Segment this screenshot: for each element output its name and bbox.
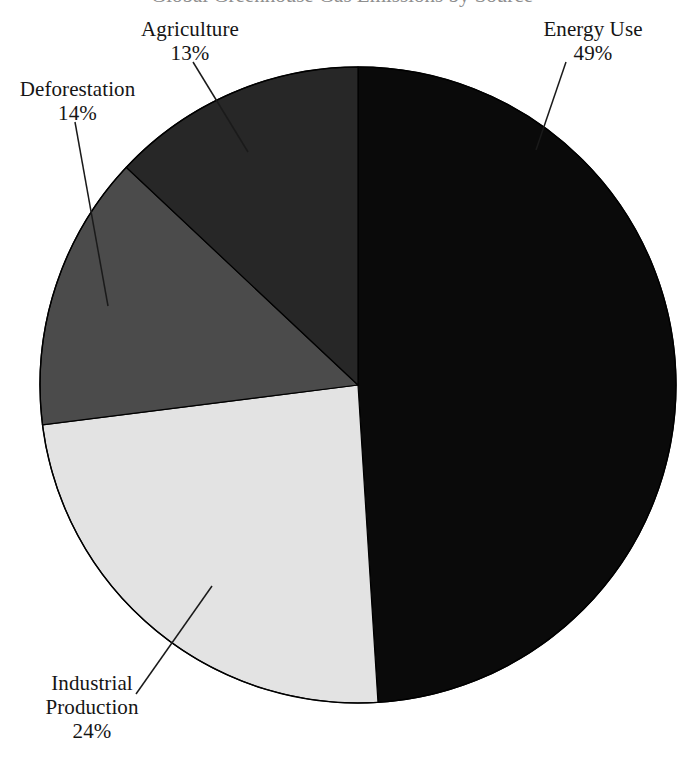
slice-label-deforestation-percent: 14% — [0, 102, 155, 126]
slice-label-agriculture-percent: 13% — [110, 42, 270, 66]
slice-label-deforestation: Deforestation 14% — [0, 78, 155, 126]
slice-label-deforestation-name: Deforestation — [0, 78, 155, 102]
slice-label-industrial-production: Industrial Production 24% — [6, 672, 178, 744]
pie-chart-figure: Global Greenhouse Gas Emissions by Sourc… — [0, 0, 684, 759]
slice-label-energy-use-percent: 49% — [502, 42, 684, 66]
slice-label-industrial-production-percent: 24% — [6, 720, 178, 744]
pie-slice-energy-use[interactable] — [358, 67, 676, 702]
slice-label-energy-use: Energy Use 49% — [502, 18, 684, 66]
slice-label-industrial-production-name: Industrial — [6, 672, 178, 696]
slice-label-energy-use-name: Energy Use — [502, 18, 684, 42]
slice-label-agriculture-name: Agriculture — [110, 18, 270, 42]
pie-slice-industrial-production[interactable] — [43, 385, 378, 703]
slice-label-industrial-production-name2: Production — [6, 696, 178, 720]
slice-label-agriculture: Agriculture 13% — [110, 18, 270, 66]
